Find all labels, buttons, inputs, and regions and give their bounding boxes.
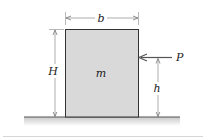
- label-h: h: [153, 82, 160, 95]
- dimension-H: H: [47, 30, 64, 117]
- force-arrow-P: P: [139, 51, 184, 64]
- ground-shade: [24, 117, 180, 126]
- label-b: b: [97, 12, 104, 25]
- dimension-b: b: [66, 12, 139, 25]
- block-diagram: b H m P h: [0, 0, 203, 140]
- dimension-h: h: [153, 59, 160, 117]
- label-m: m: [96, 67, 106, 80]
- label-H: H: [47, 65, 58, 78]
- label-P: P: [175, 51, 184, 64]
